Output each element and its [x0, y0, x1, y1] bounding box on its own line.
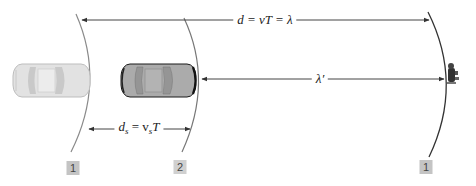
doppler-diagram: d = vT = λ λ′ ds = vsT 1 2 1 [0, 0, 476, 186]
observer-icon [447, 63, 459, 84]
wavefront-1-far-arc [428, 12, 446, 157]
position-box-1-left: 1 [67, 161, 80, 175]
label-source-distance: ds = vsT [114, 120, 163, 138]
label-ds-T: T [152, 119, 159, 134]
label-lambda-prime: λ′ [312, 72, 328, 86]
position-box-2: 2 [174, 160, 187, 174]
label-ds-eq: = v [128, 119, 148, 134]
position-box-1-right: 1 [420, 160, 433, 174]
car-icon-position-1 [13, 64, 90, 97]
diagram-canvas [0, 0, 476, 186]
car-icon-position-2 [121, 64, 196, 97]
label-d-equals-vT-lambda: d = vT = λ [233, 13, 296, 27]
